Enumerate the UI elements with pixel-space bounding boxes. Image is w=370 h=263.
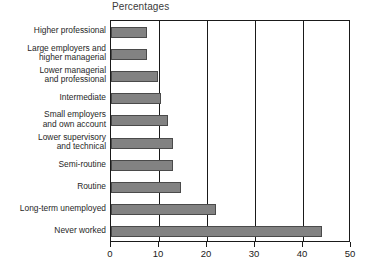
bar-row — [111, 132, 349, 154]
category-label: Routine — [0, 182, 106, 192]
x-tick-mark-50 — [350, 242, 351, 247]
x-tick-label-40: 40 — [297, 248, 308, 259]
bar — [111, 226, 322, 237]
bar-row — [111, 154, 349, 176]
bar-row — [111, 65, 349, 87]
bar — [111, 204, 216, 215]
x-tick-label-50: 50 — [345, 248, 356, 259]
bar — [111, 160, 173, 171]
category-label: Large employers and higher managerial — [0, 44, 106, 63]
bar-row — [111, 221, 349, 243]
category-label: Higher professional — [0, 26, 106, 36]
category-label: Intermediate — [0, 93, 106, 103]
x-tick-mark-40 — [302, 242, 303, 247]
bar-row — [111, 21, 349, 43]
bar — [111, 71, 158, 82]
category-label: Never worked — [0, 226, 106, 236]
plot-area — [110, 20, 350, 242]
bar-row — [111, 176, 349, 198]
category-label: Semi-routine — [0, 160, 106, 170]
bar — [111, 115, 168, 126]
bar-row — [111, 110, 349, 132]
percentages-bar-chart: Percentages Higher professionalLarge emp… — [0, 0, 370, 263]
bar-row — [111, 199, 349, 221]
bars-layer — [111, 21, 349, 241]
x-tick-label-0: 0 — [107, 248, 112, 259]
category-label: Lower supervisory and technical — [0, 133, 106, 152]
bar — [111, 49, 147, 60]
bar-row — [111, 43, 349, 65]
x-tick-mark-20 — [206, 242, 207, 247]
category-label: Long-term unemployed — [0, 204, 106, 214]
category-label: Lower managerial and professional — [0, 66, 106, 85]
x-tick-label-20: 20 — [201, 248, 212, 259]
category-label: Small employers and own account — [0, 110, 106, 129]
bar — [111, 27, 147, 38]
x-tick-mark-10 — [158, 242, 159, 247]
chart-title: Percentages — [112, 1, 169, 12]
x-tick-label-10: 10 — [153, 248, 164, 259]
bar — [111, 182, 181, 193]
x-tick-mark-30 — [254, 242, 255, 247]
bar-row — [111, 88, 349, 110]
bar — [111, 138, 173, 149]
category-axis-labels: Higher professionalLarge employers and h… — [0, 20, 106, 242]
x-tick-label-30: 30 — [249, 248, 260, 259]
x-axis: 01020304050 — [110, 242, 350, 263]
x-tick-mark-0 — [110, 242, 111, 247]
bar — [111, 93, 161, 104]
